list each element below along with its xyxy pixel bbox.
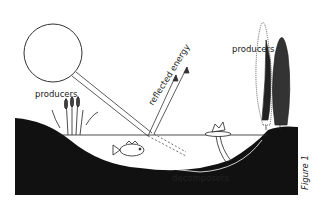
- producers-label-right: producers: [232, 44, 275, 54]
- water-lily-icon: [205, 122, 232, 165]
- decomposers-label: decomposers: [172, 173, 230, 183]
- figure-label: Figure 1: [300, 155, 310, 190]
- reflected-energy-label: reflected energy: [146, 42, 192, 107]
- fish-icon: [113, 141, 144, 156]
- producers-label-left: producers: [35, 89, 78, 99]
- trees-icon: [256, 23, 290, 131]
- sunlight-beam: [72, 72, 152, 136]
- sun-icon: [24, 24, 82, 82]
- pond-ecosystem-diagram: producers producers reflected energy dec…: [0, 0, 319, 205]
- transmitted-light-arrows: [148, 134, 186, 156]
- cattails-icon: [52, 96, 98, 135]
